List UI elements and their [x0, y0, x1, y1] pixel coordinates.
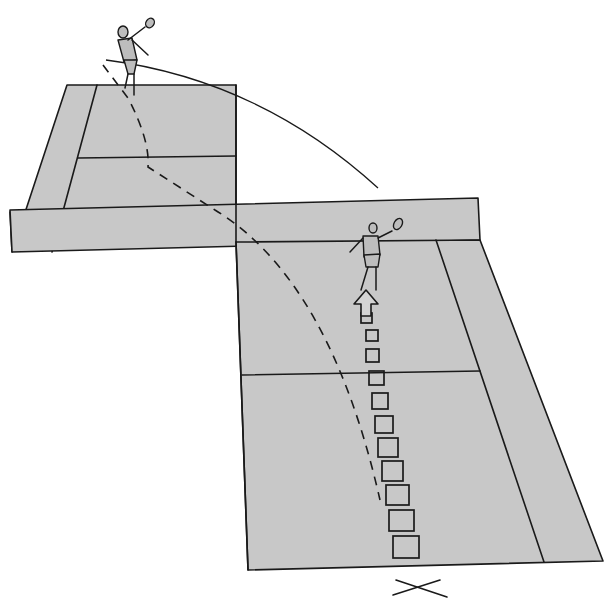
far-player-racket — [144, 17, 156, 30]
badminton-diagram: Badminton footwork diagram: player moves… — [0, 0, 610, 611]
near-player-shorts — [364, 254, 380, 267]
far-player-shorts — [124, 60, 137, 74]
diagram-canvas — [0, 0, 610, 611]
near-player-head — [369, 223, 377, 233]
far-player-head — [118, 26, 128, 38]
far-player-figure — [118, 17, 156, 95]
near-court — [236, 85, 603, 570]
start-mark-x-icon — [393, 580, 447, 597]
near-court-surface — [236, 240, 603, 570]
